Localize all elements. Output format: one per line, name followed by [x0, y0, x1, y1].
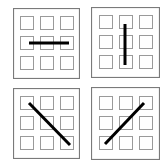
grid-square — [140, 56, 153, 69]
grid-square — [100, 97, 113, 110]
grid-square — [140, 117, 153, 130]
grid-square — [21, 117, 34, 130]
panel-figure — [13, 8, 80, 79]
grid-square — [21, 137, 34, 150]
panel-top-left — [13, 8, 80, 79]
grid-square — [61, 17, 74, 30]
grid-square — [41, 137, 54, 150]
grid-square — [41, 97, 54, 110]
panel-bottom-right — [91, 87, 160, 160]
grid-square — [120, 137, 133, 150]
grid-square — [61, 97, 74, 110]
panel-top-right — [91, 7, 160, 78]
grid-square — [100, 117, 113, 130]
grid-square — [100, 56, 113, 69]
panel-figure — [91, 7, 160, 78]
panel-figure — [91, 87, 160, 160]
grid-square — [61, 57, 74, 70]
grid-square — [21, 57, 34, 70]
grid-square — [140, 36, 153, 49]
grid-square — [41, 17, 54, 30]
grid-square — [100, 16, 113, 29]
panel-bottom-left — [13, 88, 80, 159]
grid-square — [120, 97, 133, 110]
grid-square — [21, 17, 34, 30]
grid-square — [140, 16, 153, 29]
grid-square — [41, 57, 54, 70]
panel-border — [14, 89, 80, 159]
grid-square — [61, 117, 74, 130]
panel-figure — [13, 88, 80, 159]
grid-square — [140, 137, 153, 150]
grid-square — [100, 36, 113, 49]
